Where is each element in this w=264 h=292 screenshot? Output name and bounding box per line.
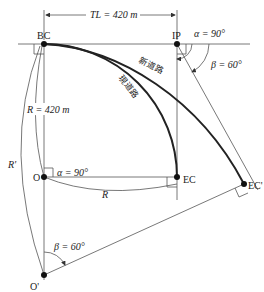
label-bc: BC (37, 30, 51, 41)
label-new-road: 新道路 (137, 55, 166, 77)
alpha-arc-ip (177, 44, 192, 59)
point-ip (174, 41, 180, 47)
point-ec-prime (241, 181, 247, 187)
beta-arc-o-prime (44, 252, 65, 265)
tl-label: TL = 420 m (90, 9, 137, 20)
point-ec (174, 174, 180, 180)
label-alpha-o: α = 90° (57, 167, 88, 178)
beta-arc-ip (192, 44, 209, 72)
label-alpha-ip: α = 90° (194, 28, 225, 39)
label-r: R (101, 189, 108, 200)
label-r-value: R = 420 m (26, 104, 70, 115)
right-angle-ec-prime (235, 188, 248, 197)
label-ec: EC (183, 174, 196, 185)
r-prime-arc (21, 46, 44, 275)
label-ip: IP (172, 30, 181, 41)
tl-dimension: TL = 420 m (44, 6, 177, 40)
point-o (41, 174, 47, 180)
label-beta-ip: β = 60° (210, 59, 242, 70)
curve-diagram: TL = 420 m BC IP EC EC' O O' R = 420 m R… (0, 0, 264, 292)
label-r-prime: R' (7, 159, 17, 170)
label-current-road: 現道路 (116, 73, 141, 100)
label-beta-o: β = 60° (53, 241, 85, 252)
point-o-prime (41, 272, 47, 278)
label-ec-prime: EC' (248, 180, 263, 191)
o-prime-ec-prime-line (44, 184, 244, 275)
point-bc (41, 41, 47, 47)
label-o: O (33, 172, 40, 183)
label-o-prime: O' (30, 281, 39, 292)
